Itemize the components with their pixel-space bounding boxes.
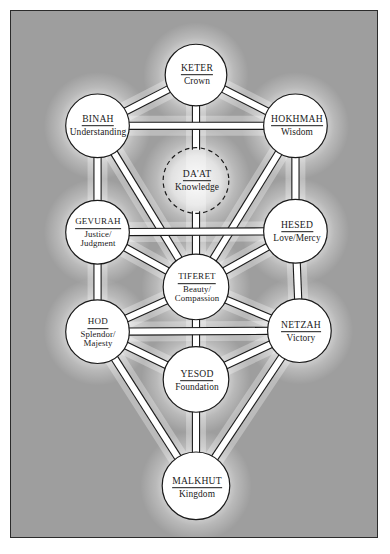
path-gevurah-hod: [94, 262, 101, 302]
path-edge-0: [127, 235, 265, 236]
sefirah-circle-gevurah[interactable]: [66, 200, 130, 264]
path-fill: [192, 410, 199, 454]
sefirah-circle-hesed[interactable]: [264, 199, 328, 263]
path-yesod-malkhut: [192, 410, 199, 454]
sefirah-circle-hokhmah[interactable]: [264, 94, 328, 158]
path-binah-hokhmah: [127, 122, 265, 129]
path-fill: [94, 262, 101, 302]
sefirah-circle-tiferet[interactable]: [163, 254, 229, 320]
sefirah-circle-netzah[interactable]: [268, 299, 332, 363]
path-binah-gevurah: [94, 156, 101, 203]
path-edge-1: [127, 228, 265, 229]
sefirah-circle-binah[interactable]: [66, 94, 130, 158]
path-fill: [127, 122, 265, 129]
sefirah-circle-hod[interactable]: [66, 300, 130, 364]
path-edge-0: [127, 334, 269, 335]
path-hod-netzah: [127, 327, 269, 335]
path-fill: [94, 156, 101, 203]
path-hesed-netzah: [293, 261, 302, 301]
tree-of-life-diagram: [11, 11, 377, 537]
path-fill: [292, 156, 299, 202]
sefirah-circle-malkhut[interactable]: [162, 452, 230, 520]
sefirah-circle-yesod[interactable]: [163, 347, 229, 413]
sefirah-circle-keter[interactable]: [165, 44, 227, 106]
path-fill: [127, 327, 269, 335]
path-gevurah-hesed: [127, 228, 265, 236]
path-hokhmah-hesed: [292, 156, 299, 202]
path-fill: [127, 228, 265, 236]
figure-frame: KETERCrownBINAHUnderstandingHOKHMAHWisdo…: [10, 10, 378, 538]
path-edge-1: [127, 327, 269, 328]
tree-of-life-figure: KETERCrownBINAHUnderstandingHOKHMAHWisdo…: [0, 0, 390, 554]
